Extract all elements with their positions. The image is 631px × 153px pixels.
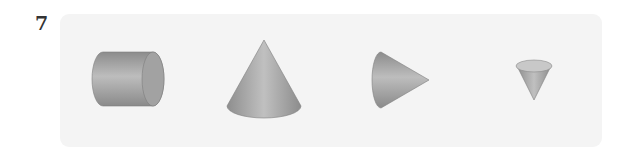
shapes-canvas: [0, 0, 631, 153]
inverted-cone-shape: [516, 60, 552, 100]
sideways-cone-shape: [372, 52, 429, 108]
upright-cone-shape: [227, 40, 301, 118]
cylinder-shape: [92, 52, 164, 106]
